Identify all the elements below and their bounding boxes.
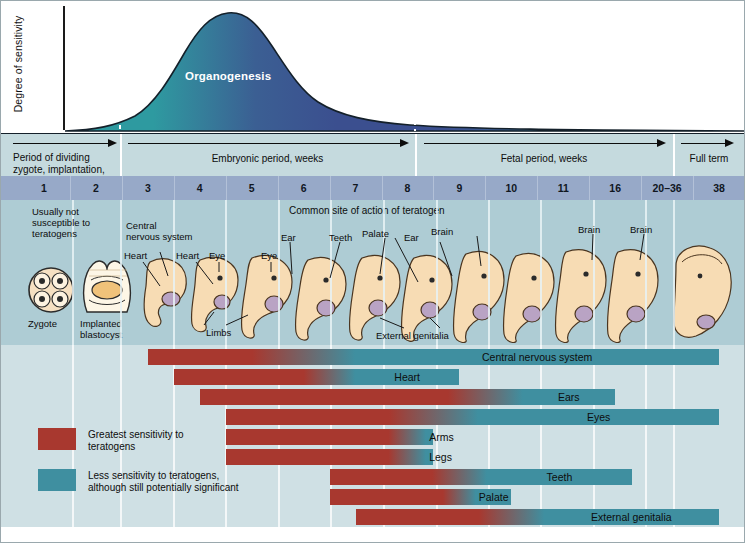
note-external-genitalia: External genitalia [376, 330, 449, 341]
sensitivity-curve-area [65, 13, 744, 131]
week-tick [382, 176, 383, 200]
week-cell-1[interactable]: 1 [18, 176, 70, 200]
note-brain-week16: Brain [578, 224, 600, 235]
period-arrow-line-4 [681, 143, 727, 144]
teratogen-sensitivity-figure: Degree of sensitivity [0, 0, 745, 543]
organ-sensitivity-bars-region: Greatest sensitivity to teratogens Less … [0, 345, 745, 527]
sensitivity-curve-svg [0, 0, 745, 133]
legend-label-greatest: Greatest sensitivity to teratogens [88, 429, 238, 453]
period-arrow-head-3 [657, 139, 666, 147]
week-cell-2[interactable]: 2 [70, 176, 122, 200]
week-tick [278, 176, 279, 200]
organ-bar-label-teeth: Teeth [547, 469, 573, 485]
bars-col-line-10 [540, 345, 542, 527]
note-eye-week5: Eye [261, 250, 277, 261]
sensitivity-curve-region: Degree of sensitivity [0, 0, 745, 133]
organ-bar-label-external-genitalia: External genitalia [591, 509, 672, 525]
week-number-row: 12345678910111620–3638 [0, 176, 745, 200]
note-palate: Palate [362, 228, 389, 239]
organ-bar-label-legs: Legs [429, 449, 452, 465]
note-usually-not-susceptible: Usually not susceptible to teratogens [32, 206, 116, 239]
bars-col-line-12 [645, 345, 647, 527]
legend-label-less: Less sensitivity to teratogens, although… [88, 470, 263, 494]
period-arrow-line-2 [128, 143, 402, 144]
organ-bar-ears[interactable] [200, 389, 615, 405]
period-label-fetal: Fetal period, weeks [420, 153, 668, 165]
organ-bar-label-eyes: Eyes [587, 409, 610, 425]
period-divider-3 [673, 134, 675, 177]
organ-bar-label-arms: Arms [429, 429, 454, 445]
note-teeth: Teeth [329, 232, 352, 243]
organ-bar-arms[interactable] [226, 429, 434, 445]
period-divider-2 [415, 134, 417, 177]
week-cell-38[interactable]: 38 [693, 176, 745, 200]
week-tick [537, 176, 538, 200]
bars-col-line-11 [593, 345, 595, 527]
note-ear-week8: Ear [404, 232, 419, 243]
week-tick [641, 176, 642, 200]
week-cell-10[interactable]: 10 [485, 176, 537, 200]
note-heart-week3: Heart [124, 250, 147, 261]
legend-swatch-greatest [38, 428, 76, 450]
week-cell-5[interactable]: 5 [226, 176, 278, 200]
period-arrow-head-1 [108, 139, 117, 147]
week-tick [70, 176, 71, 200]
note-ear-week6: Ear [281, 232, 296, 243]
organ-bar-teeth[interactable] [330, 469, 633, 485]
period-arrow-line-3 [424, 143, 659, 144]
note-limbs: Limbs [206, 327, 231, 338]
week-cell-4[interactable]: 4 [174, 176, 226, 200]
organ-bar-label-heart: Heart [394, 369, 420, 385]
week-tick [226, 176, 227, 200]
period-label-full-term: Full term [676, 153, 742, 165]
legend-swatch-less [38, 469, 76, 491]
note-heart-week4: Heart [176, 250, 199, 261]
week-tick [693, 176, 694, 200]
period-label-embryonic: Embryonic period, weeks [125, 153, 410, 165]
week-cell-11[interactable]: 11 [537, 176, 589, 200]
week-cell-9[interactable]: 9 [433, 176, 485, 200]
note-brain-week2036: Brain [630, 224, 652, 235]
period-band: Period of dividing zygote, implantation,… [0, 133, 745, 176]
week-cell-6[interactable]: 6 [278, 176, 330, 200]
week-tick [122, 176, 123, 200]
bottom-strip [0, 527, 745, 543]
note-eye-week4: Eye [209, 250, 225, 261]
organ-bar-label-ears: Ears [558, 389, 580, 405]
period-arrow-head-4 [725, 139, 734, 147]
week-cell-8[interactable]: 8 [382, 176, 434, 200]
organ-bar-label-palate: Palate [479, 489, 509, 505]
week-tick [330, 176, 331, 200]
organogenesis-label: Organogenesis [185, 70, 271, 82]
organ-bar-legs[interactable] [226, 449, 434, 465]
embryo-illustration-row: Common site of action of teratogen Zygot… [0, 200, 745, 345]
week-cell-20-36[interactable]: 20–36 [641, 176, 693, 200]
period-arrow-head-2 [400, 139, 409, 147]
week-cell-7[interactable]: 7 [330, 176, 382, 200]
note-central-nervous-system: Central nervous system [126, 220, 198, 242]
week-tick [433, 176, 434, 200]
week-tick [589, 176, 590, 200]
period-arrow-line-1 [13, 143, 110, 144]
bars-col-line-13 [673, 345, 675, 527]
organ-bar-central-nervous-system[interactable] [148, 349, 719, 365]
week-tick [485, 176, 486, 200]
week-cell-16[interactable]: 16 [589, 176, 641, 200]
organ-bar-label-central-nervous-system: Central nervous system [482, 349, 592, 365]
week-tick [174, 176, 175, 200]
note-brain-week9: Brain [431, 226, 453, 237]
week-cell-3[interactable]: 3 [122, 176, 174, 200]
organ-bar-eyes[interactable] [226, 409, 719, 425]
